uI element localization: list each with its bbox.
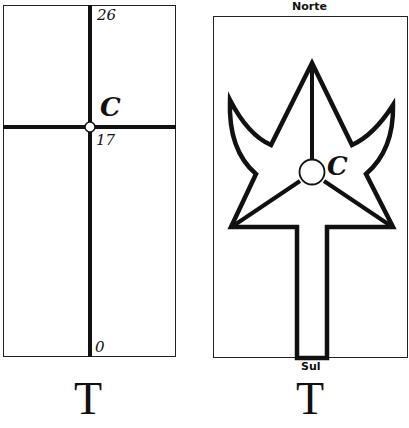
star-arrow-symbol [0,0,409,428]
center-letter-right: C [327,151,348,181]
caption-letter-right: T [296,372,324,425]
